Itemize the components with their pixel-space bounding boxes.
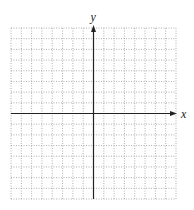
coordinate-grid: xy	[0, 0, 194, 210]
x-axis-label: x	[180, 107, 187, 121]
x-axis-arrow-icon	[170, 111, 177, 116]
y-axis-label: y	[90, 10, 97, 24]
y-axis-arrow-icon	[91, 25, 96, 32]
